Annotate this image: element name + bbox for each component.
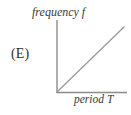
y-axis-label: frequency f — [32, 5, 85, 20]
x-axis-label: period T — [74, 93, 113, 105]
data-line-positive-slope — [58, 27, 125, 92]
answer-choice-figure: (E) frequency f period T — [0, 0, 131, 115]
choice-label: (E) — [11, 46, 29, 62]
